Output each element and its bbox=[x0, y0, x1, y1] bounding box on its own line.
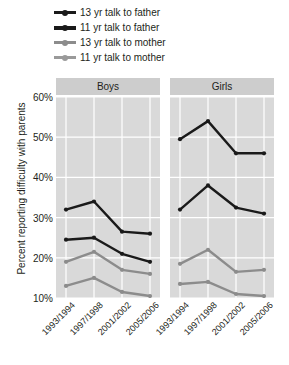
chart-legend: 13 yr talk to father11 yr talk to father… bbox=[54, 6, 166, 64]
legend-item: 11 yr talk to father bbox=[54, 21, 166, 34]
legend-item-label: 13 yr talk to mother bbox=[80, 37, 166, 48]
y-axis-tick-labels: 10%20%30%40%50%60% bbox=[20, 88, 53, 308]
y-tick-label: 60% bbox=[33, 92, 53, 103]
legend-line-icon bbox=[54, 26, 76, 30]
legend-item: 11 yr talk to mother bbox=[54, 51, 166, 64]
y-tick-label: 30% bbox=[33, 212, 53, 223]
y-tick-label: 20% bbox=[33, 252, 53, 263]
legend-item-label: 11 yr talk to father bbox=[80, 22, 159, 33]
legend-item: 13 yr talk to mother bbox=[54, 36, 166, 49]
legend-line-icon bbox=[54, 11, 76, 14]
y-tick-label: 50% bbox=[33, 132, 53, 143]
panel-container: Boys Girls bbox=[56, 78, 284, 298]
y-tick-label: 40% bbox=[33, 172, 53, 183]
panel-strip-label-boys: Boys bbox=[56, 78, 160, 95]
x-axis-tick-labels-girls: 1993/19941997/19982001/20022005/2006 bbox=[170, 300, 274, 362]
legend-item-label: 11 yr talk to mother bbox=[80, 52, 165, 63]
plot-area-boys bbox=[56, 97, 160, 298]
panel-girls: Girls bbox=[170, 78, 274, 298]
plot-area-girls bbox=[170, 97, 274, 298]
legend-item-label: 13 yr talk to father bbox=[80, 7, 160, 18]
chart-figure: 13 yr talk to father11 yr talk to father… bbox=[0, 0, 289, 365]
x-axis-tick-labels-boys: 1993/19941997/19982001/20022005/2006 bbox=[56, 300, 160, 362]
legend-line-icon bbox=[54, 56, 76, 59]
panel-boys: Boys bbox=[56, 78, 160, 298]
panel-strip-label-girls: Girls bbox=[170, 78, 274, 95]
y-tick-label: 10% bbox=[33, 293, 53, 304]
legend-item: 13 yr talk to father bbox=[54, 6, 166, 19]
legend-line-icon bbox=[54, 41, 76, 44]
